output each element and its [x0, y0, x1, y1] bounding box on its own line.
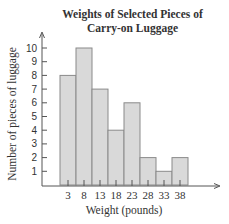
y-tick-label: 9	[31, 56, 37, 67]
histogram-bar	[92, 89, 108, 185]
y-tick-label: 3	[31, 138, 37, 149]
histogram-plot: 1234567891038131823283338	[0, 0, 229, 224]
x-tick-label: 18	[111, 189, 123, 201]
y-tick-label: 1	[31, 166, 37, 177]
x-tick-label: 13	[95, 189, 107, 201]
y-tick-label: 4	[31, 125, 37, 136]
x-tick-label: 28	[143, 189, 155, 201]
y-tick-label: 5	[31, 111, 37, 122]
histogram-bar	[76, 48, 92, 185]
histogram-bar	[108, 130, 124, 185]
x-tick-label: 23	[127, 189, 139, 201]
y-tick-label: 8	[31, 70, 37, 81]
y-tick-label: 10	[26, 43, 38, 54]
x-tick-label: 3	[65, 189, 71, 201]
histogram-bar	[124, 103, 140, 185]
x-tick-label: 33	[159, 189, 171, 201]
x-tick-label: 38	[175, 189, 187, 201]
y-tick-label: 7	[31, 84, 37, 95]
y-tick-label: 2	[31, 152, 37, 163]
x-tick-label: 8	[81, 189, 87, 201]
y-tick-label: 6	[31, 97, 37, 108]
histogram-bar	[60, 75, 76, 185]
